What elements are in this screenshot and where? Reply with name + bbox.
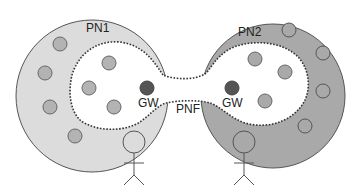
node	[282, 23, 296, 37]
node	[43, 100, 57, 114]
pnf-federation-area	[70, 42, 308, 129]
node	[248, 52, 262, 66]
node	[107, 100, 121, 114]
pn2-gateway-node	[225, 81, 239, 95]
pn1-gateway-node	[140, 81, 154, 95]
node	[102, 56, 116, 70]
pn1-gateway-label: GW	[138, 96, 159, 110]
node	[53, 37, 67, 51]
node	[38, 66, 52, 80]
pnf-label: PNF	[176, 102, 200, 116]
node	[68, 129, 82, 143]
node	[278, 65, 292, 79]
pn2-gateway-label: GW	[222, 96, 243, 110]
pn1-label: PN1	[86, 21, 110, 35]
node	[298, 119, 312, 133]
pn-federation-diagram: PN1 PN2 PNF GW GW	[0, 0, 364, 195]
node	[316, 46, 330, 60]
node	[316, 84, 330, 98]
node	[82, 81, 96, 95]
pn2-label: PN2	[238, 25, 262, 39]
node	[258, 94, 272, 108]
